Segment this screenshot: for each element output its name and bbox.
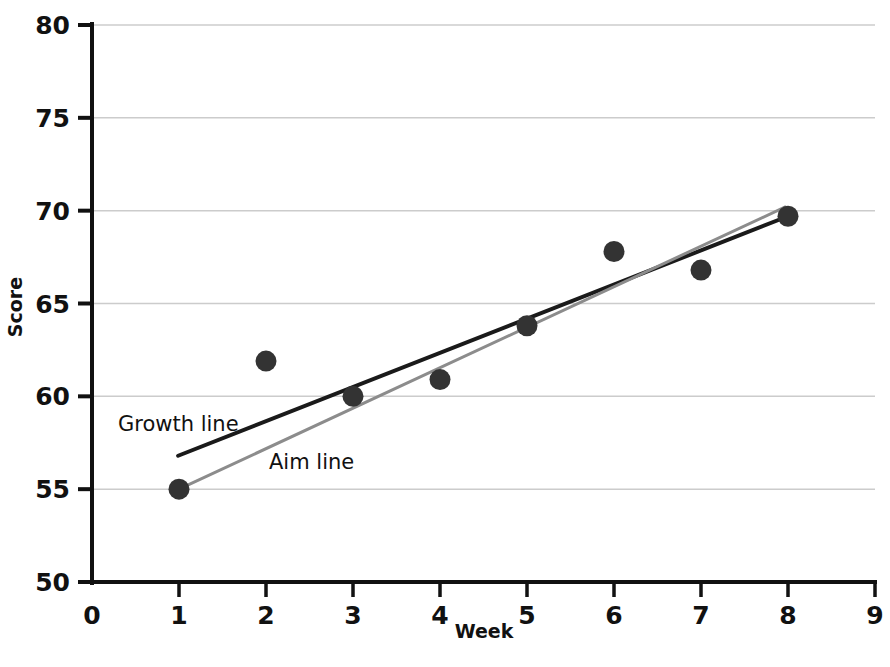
x-axis-tick-label: 9 xyxy=(866,601,883,630)
x-axis-tick-label: 4 xyxy=(431,601,448,630)
data-point xyxy=(256,351,277,372)
x-axis-tick-label: 8 xyxy=(779,601,796,630)
x-axis-tick-label: 0 xyxy=(83,601,100,630)
series-annotation-label: Aim line xyxy=(269,450,354,474)
data-point xyxy=(778,206,799,227)
data-point xyxy=(517,315,538,336)
x-axis-tick-label: 6 xyxy=(605,601,622,630)
scatter-chart: 50556065707580 0123456789 Growth lineAim… xyxy=(0,0,890,667)
x-axis-tick-label: 2 xyxy=(257,601,274,630)
data-point xyxy=(691,260,712,281)
y-axis-tick-label: 80 xyxy=(35,11,70,40)
y-axis-tick-label: 50 xyxy=(35,568,70,597)
x-axis-title: Week xyxy=(455,620,514,642)
y-axis-tick-label: 55 xyxy=(35,475,70,504)
y-axis-tick-label: 60 xyxy=(35,382,70,411)
y-axis-tick-label: 70 xyxy=(35,197,70,226)
chart-background xyxy=(0,0,890,667)
chart-container: 50556065707580 0123456789 Growth lineAim… xyxy=(0,0,890,667)
x-axis-tick-label: 3 xyxy=(344,601,361,630)
series-annotation-label: Growth line xyxy=(118,412,239,436)
data-point xyxy=(169,479,190,500)
y-axis-title: Score xyxy=(4,277,26,337)
data-point xyxy=(343,386,364,407)
x-axis-tick-label: 5 xyxy=(518,601,535,630)
y-axis-tick-label: 75 xyxy=(35,104,70,133)
x-axis-tick-label: 1 xyxy=(170,601,187,630)
data-point xyxy=(604,241,625,262)
y-axis-tick-label: 65 xyxy=(35,290,70,319)
x-axis-tick-label: 7 xyxy=(692,601,709,630)
data-point xyxy=(430,369,451,390)
